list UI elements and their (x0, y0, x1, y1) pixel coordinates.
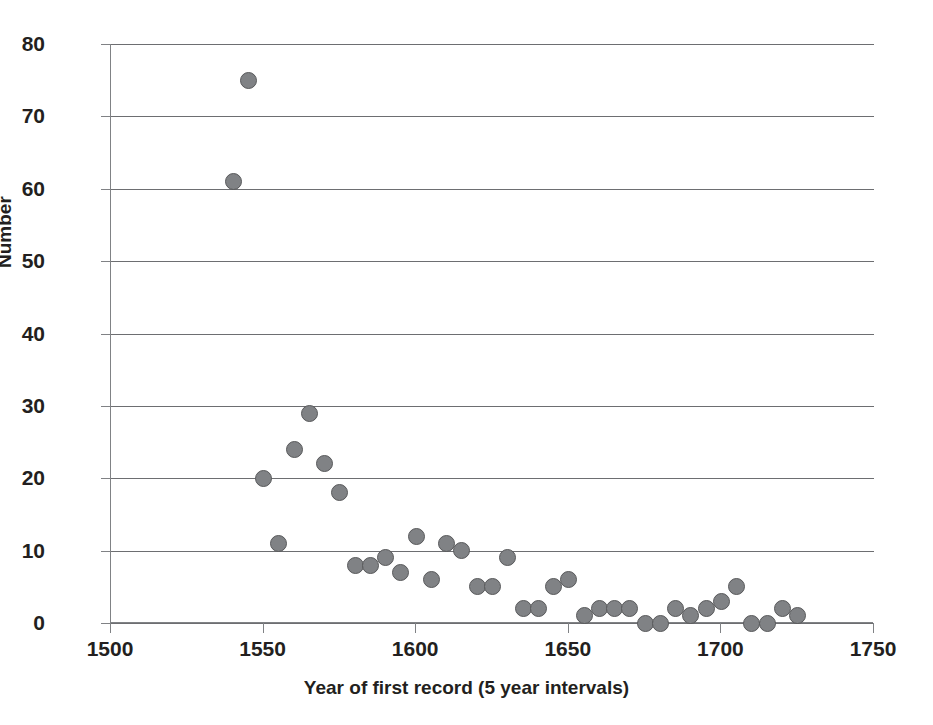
y-tick-mark-80 (101, 44, 110, 45)
y-tick-mark-40 (101, 334, 110, 335)
y-tick-label-50: 50 (0, 250, 45, 271)
y-tick-label-40: 40 (0, 323, 45, 344)
data-point (621, 600, 638, 617)
data-point (225, 173, 242, 190)
y-tick-label-0: 0 (0, 612, 45, 633)
x-tick-mark-1700 (720, 623, 721, 633)
gridline-60 (111, 189, 874, 190)
x-tick-label-1750: 1750 (823, 637, 923, 661)
data-point (682, 607, 699, 624)
gridline-80 (111, 44, 874, 45)
x-tick-mark-1550 (263, 623, 264, 633)
y-tick-mark-70 (101, 116, 110, 117)
plot-area (110, 44, 873, 623)
y-tick-mark-0 (101, 623, 110, 624)
y-tick-mark-60 (101, 189, 110, 190)
x-axis-title: Year of first record (5 year intervals) (0, 677, 933, 699)
data-point (301, 405, 318, 422)
data-point (515, 600, 532, 617)
gridline-50 (111, 261, 874, 262)
y-tick-mark-10 (101, 551, 110, 552)
y-tick-label-10: 10 (0, 540, 45, 561)
data-point (576, 607, 593, 624)
y-tick-label-80: 80 (0, 33, 45, 54)
x-tick-mark-1750 (873, 623, 874, 633)
data-point (316, 455, 333, 472)
gridline-40 (111, 334, 874, 335)
data-point (240, 72, 257, 89)
data-point (286, 441, 303, 458)
data-point (453, 542, 470, 559)
x-tick-mark-1650 (568, 623, 569, 633)
data-point (743, 615, 760, 632)
data-point (331, 484, 348, 501)
data-point (484, 578, 501, 595)
gridline-30 (111, 406, 874, 407)
data-point (499, 549, 516, 566)
data-point (530, 600, 547, 617)
y-tick-label-20: 20 (0, 467, 45, 488)
y-tick-label-60: 60 (0, 178, 45, 199)
data-point (423, 571, 440, 588)
x-tick-mark-1500 (110, 623, 111, 633)
x-tick-label-1550: 1550 (213, 637, 313, 661)
scatter-chart-figure: Number 01020304050607080 150015501600165… (0, 0, 933, 725)
data-point (408, 528, 425, 545)
gridline-10 (111, 551, 874, 552)
y-tick-mark-50 (101, 261, 110, 262)
gridline-70 (111, 116, 874, 117)
data-point (270, 535, 287, 552)
y-tick-label-70: 70 (0, 105, 45, 126)
data-point (698, 600, 715, 617)
y-tick-mark-30 (101, 406, 110, 407)
x-tick-label-1500: 1500 (60, 637, 160, 661)
x-tick-mark-1600 (415, 623, 416, 633)
data-point (255, 470, 272, 487)
data-point (789, 607, 806, 624)
y-tick-mark-20 (101, 478, 110, 479)
data-point (652, 615, 669, 632)
gridline-20 (111, 478, 874, 479)
data-point (759, 615, 776, 632)
data-point (560, 571, 577, 588)
data-point (377, 549, 394, 566)
y-tick-label-30: 30 (0, 395, 45, 416)
x-tick-label-1600: 1600 (365, 637, 465, 661)
x-tick-label-1700: 1700 (670, 637, 770, 661)
data-point (728, 578, 745, 595)
x-tick-label-1650: 1650 (518, 637, 618, 661)
data-point (713, 593, 730, 610)
data-point (392, 564, 409, 581)
